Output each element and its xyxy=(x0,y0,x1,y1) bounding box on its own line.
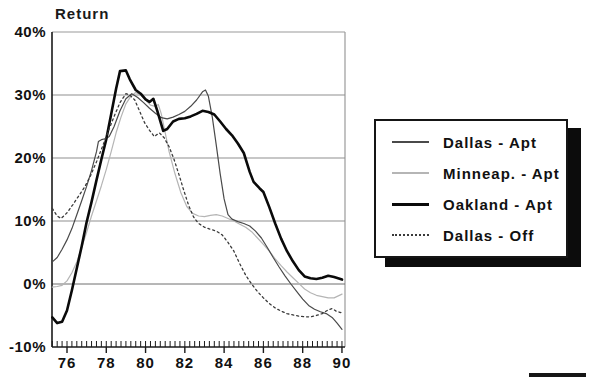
x-tick-label: 78 xyxy=(97,354,116,371)
x-tick-label: 82 xyxy=(175,354,194,371)
y-tick-label: 30% xyxy=(14,86,46,103)
legend-item-oakland-apt: Oakland - Apt xyxy=(376,190,566,218)
series-oakland-apt xyxy=(52,70,342,323)
y-tick-label: 20% xyxy=(14,149,46,166)
legend-item-minneap-apt: Minneap. - Apt xyxy=(376,159,566,187)
minneap-apt-line-sample xyxy=(392,172,429,174)
y-tick-label: 0% xyxy=(23,275,46,292)
series-minneap-apt xyxy=(52,93,342,298)
x-tick-label: 76 xyxy=(58,354,77,371)
x-tick-label: 86 xyxy=(254,354,273,371)
legend: Dallas - Apt Minneap. - Apt Oakland - Ap… xyxy=(374,119,568,258)
y-tick-label: 40% xyxy=(14,23,46,40)
oakland-apt-line-sample xyxy=(392,203,429,206)
series-dallas-apt xyxy=(52,90,342,329)
legend-label: Oakland - Apt xyxy=(443,196,553,213)
legend-label: Dallas - Apt xyxy=(443,134,537,151)
dallas-apt-line-sample xyxy=(392,141,429,143)
x-tick-label: 88 xyxy=(293,354,312,371)
legend-label: Dallas - Off xyxy=(443,227,534,244)
legend-label: Minneap. - Apt xyxy=(443,165,560,182)
dallas-off-line-sample xyxy=(392,234,429,236)
x-tick-label: 84 xyxy=(215,354,234,371)
y-tick-label: 10% xyxy=(14,212,46,229)
x-tick-label: 90 xyxy=(333,354,352,371)
x-tick-label: 80 xyxy=(136,354,155,371)
page-footer-bar xyxy=(529,373,586,377)
legend-item-dallas-off: Dallas - Off xyxy=(376,221,566,249)
legend-item-dallas-apt: Dallas - Apt xyxy=(376,128,566,156)
page: Return 40%30%20%10%0%-10%767880828486889… xyxy=(0,0,589,384)
y-tick-label: -10% xyxy=(9,338,46,355)
